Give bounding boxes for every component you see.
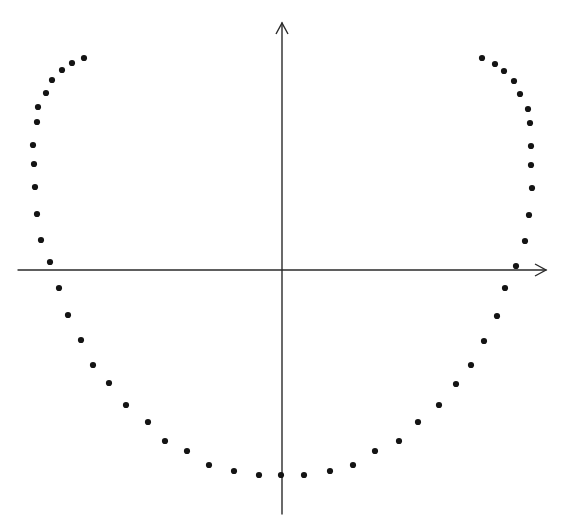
data-point-dot: [59, 67, 65, 73]
data-point-dot: [502, 285, 508, 291]
data-point-dot: [511, 78, 517, 84]
data-point-dot: [350, 462, 356, 468]
data-point-dot: [396, 438, 402, 444]
data-point-dot: [43, 90, 49, 96]
data-point-dot: [206, 462, 212, 468]
data-point-dot: [81, 55, 87, 61]
data-point-dot: [492, 61, 498, 67]
data-point-dot: [38, 237, 44, 243]
data-point-dot: [528, 162, 534, 168]
data-point-dot: [415, 419, 421, 425]
data-point-dot: [184, 448, 190, 454]
data-point-dot: [35, 104, 41, 110]
data-point-dot: [47, 259, 53, 265]
data-point-dot: [479, 55, 485, 61]
data-point-dot: [256, 472, 262, 478]
data-point-dot: [90, 362, 96, 368]
data-point-dot: [65, 312, 71, 318]
axes: [18, 23, 546, 514]
data-point-dot: [494, 313, 500, 319]
data-point-dot: [528, 143, 534, 149]
data-point-dot: [481, 338, 487, 344]
data-point-dot: [522, 238, 528, 244]
data-point-dot: [123, 402, 129, 408]
data-point-dot: [527, 120, 533, 126]
data-point-dot: [49, 77, 55, 83]
data-point-dot: [525, 106, 531, 112]
data-point-dot: [517, 91, 523, 97]
data-point-dot: [34, 211, 40, 217]
data-point-dot: [145, 419, 151, 425]
data-point-dot: [162, 438, 168, 444]
data-point-dot: [372, 448, 378, 454]
plot-canvas: [0, 0, 564, 525]
data-point-dot: [31, 161, 37, 167]
data-point-dot: [468, 362, 474, 368]
data-point-dot: [301, 472, 307, 478]
data-point-dot: [34, 119, 40, 125]
data-point-dot: [231, 468, 237, 474]
data-point-dot: [78, 337, 84, 343]
data-point-dot: [30, 142, 36, 148]
data-point-dot: [278, 472, 284, 478]
data-point-dot: [453, 381, 459, 387]
data-point-dot: [69, 60, 75, 66]
data-point-dot: [513, 263, 519, 269]
data-point-dot: [501, 68, 507, 74]
data-point-dot: [436, 402, 442, 408]
data-point-dot: [32, 184, 38, 190]
data-point-dot: [56, 285, 62, 291]
data-point-dot: [526, 212, 532, 218]
data-point-dot: [106, 380, 112, 386]
diagram-figure: [0, 0, 564, 525]
data-point-dot: [327, 468, 333, 474]
data-point-dot: [529, 185, 535, 191]
